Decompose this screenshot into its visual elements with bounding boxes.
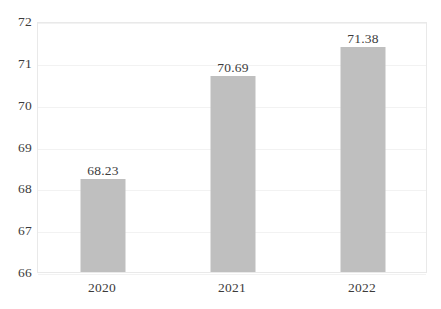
bar[interactable] (341, 47, 386, 272)
bar-value-label: 68.23 (87, 164, 118, 178)
y-tick-label: 68 (0, 183, 32, 197)
y-axis: 72 71 70 69 68 67 66 (0, 22, 32, 273)
x-tick-label: 2022 (297, 281, 427, 296)
y-tick-label: 66 (0, 266, 32, 280)
y-tick-label: 69 (0, 141, 32, 155)
y-tick-label: 71 (0, 57, 32, 71)
x-tick-label: 2020 (37, 281, 167, 296)
bar-group: 71.38 (298, 23, 428, 272)
y-tick-label: 67 (0, 224, 32, 238)
bar-value-label: 70.69 (217, 61, 248, 75)
plot-area: 68.23 70.69 71.38 (37, 22, 427, 273)
bar-chart: 72 71 70 69 68 67 66 68.23 70.69 71.38 2… (0, 0, 441, 309)
bar-value-label: 71.38 (347, 32, 378, 46)
bar[interactable] (81, 179, 126, 272)
y-tick-label: 70 (0, 99, 32, 113)
x-tick-label: 2021 (167, 281, 297, 296)
y-tick-label: 72 (0, 15, 32, 29)
gridline (38, 274, 426, 275)
bar-group: 70.69 (168, 23, 298, 272)
bar[interactable] (211, 76, 256, 272)
bar-group: 68.23 (38, 23, 168, 272)
x-axis: 2020 2021 2022 (37, 281, 427, 303)
